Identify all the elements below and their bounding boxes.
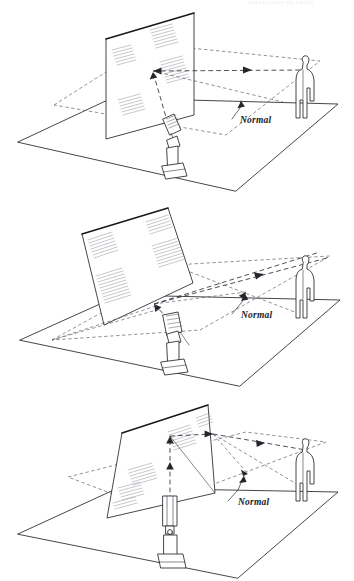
- panel-3-drawing: Normal: [0, 388, 354, 581]
- panel-2-drawing: Normal: [0, 194, 354, 388]
- plane-mirror: [106, 13, 194, 139]
- normal-label: Normal: [237, 497, 269, 507]
- standing-person: [296, 56, 314, 118]
- normal-label: Normal: [240, 310, 272, 320]
- normal-label: Normal: [239, 115, 271, 125]
- panel-1-drawing: Normal: [0, 0, 354, 194]
- figure-root: REFLECTION OF LIGHT: [0, 0, 354, 581]
- projector-lamp: [158, 496, 186, 568]
- plane-mirror: [82, 208, 193, 325]
- panel-mirror-rotated: Normal: [0, 388, 354, 581]
- normal-label-group: Normal: [232, 101, 271, 125]
- panel-mirror-vertical: Normal: [0, 0, 354, 194]
- normal-label-group: Normal: [228, 476, 269, 507]
- projector-lamp: [162, 114, 187, 179]
- panel-mirror-tilted: Normal: [0, 194, 354, 388]
- plane-mirror: [107, 405, 215, 518]
- standing-person: [296, 256, 314, 318]
- projector-lamp: [161, 312, 189, 375]
